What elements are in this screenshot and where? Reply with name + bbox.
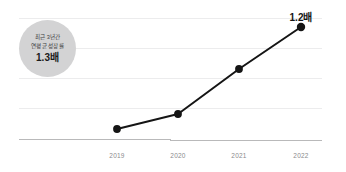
data-point-2019[interactable] [113, 125, 121, 133]
badge-value: 1.3배 [36, 51, 59, 65]
growth-line-chart: 1.2배 최근 3년간 연평균 성장률 1.3배 2019 2020 2021 … [0, 0, 346, 172]
badge-line-metric: 연평균 성장률 [31, 42, 63, 51]
growth-rate-badge: 최근 3년간 연평균 성장률 1.3배 [19, 20, 76, 77]
data-point-2020[interactable] [174, 110, 182, 118]
badge-line-period: 최근 3년간 [35, 33, 60, 42]
x-tick-2022: 2022 [293, 152, 308, 159]
x-tick-2020: 2020 [170, 152, 185, 159]
data-point-2022[interactable] [297, 23, 305, 31]
data-point-2021[interactable] [235, 65, 243, 73]
data-label-2022: 1.2배 [290, 9, 313, 24]
x-tick-2019: 2019 [109, 152, 124, 159]
x-tick-2021: 2021 [231, 152, 246, 159]
